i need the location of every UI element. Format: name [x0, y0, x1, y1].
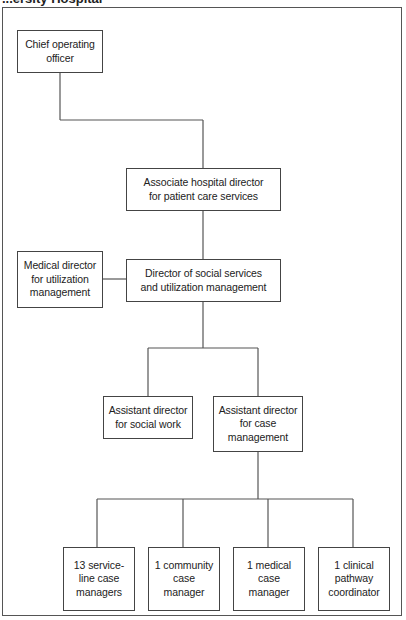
node-label: 1 clinical pathway coordinator: [328, 559, 379, 600]
node-chief-operating-officer: Chief operating officer: [17, 30, 103, 73]
node-assistant-director-case-management: Assistant director for case management: [213, 396, 303, 452]
node-community-case-manager: 1 community case manager: [148, 547, 220, 611]
connector-lines: [0, 0, 406, 620]
node-label: 1 community case manager: [155, 559, 213, 600]
node-associate-hospital-director: Associate hospital director for patient …: [126, 168, 281, 211]
node-label: Chief operating officer: [25, 38, 95, 65]
node-service-line-case-managers: 13 service- line case managers: [63, 547, 135, 611]
node-medical-case-manager: 1 medical case manager: [233, 547, 305, 611]
node-medical-director: Medical director for utilization managem…: [17, 251, 103, 308]
node-label: 1 medical case manager: [247, 559, 291, 600]
node-label: Associate hospital director for patient …: [144, 176, 264, 203]
node-label: Director of social services and utilizat…: [141, 267, 267, 294]
node-label: 13 service- line case managers: [74, 559, 124, 600]
node-label: Assistant director for case management: [219, 404, 298, 445]
node-label: Assistant director for social work: [109, 404, 188, 431]
node-director-social-services: Director of social services and utilizat…: [126, 259, 281, 302]
node-label: Medical director for utilization managem…: [24, 259, 97, 300]
node-clinical-pathway-coordinator: 1 clinical pathway coordinator: [318, 547, 390, 611]
node-assistant-director-social-work: Assistant director for social work: [103, 396, 193, 439]
